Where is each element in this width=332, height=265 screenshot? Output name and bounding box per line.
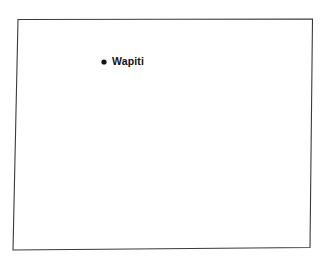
map-svg xyxy=(0,0,332,265)
state-boundary-outline xyxy=(13,19,313,250)
city-label-wapiti: Wapiti xyxy=(112,56,144,67)
map-canvas: Wapiti xyxy=(0,0,332,265)
city-marker-wapiti[interactable] xyxy=(101,59,106,64)
